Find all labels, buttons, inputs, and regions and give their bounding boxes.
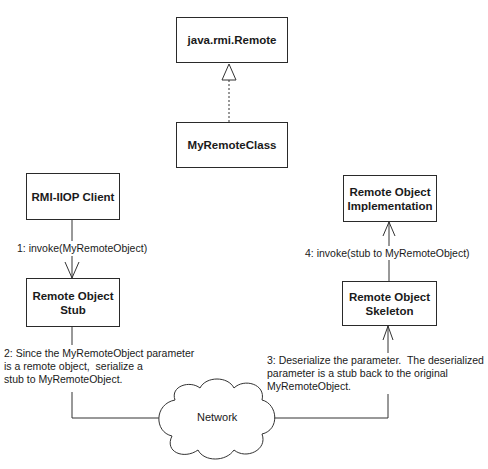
stub-network-line	[72, 392, 160, 418]
network-skeleton-line	[274, 394, 388, 418]
box-remote-object-stub: Remote Object Stub	[26, 278, 120, 327]
hollow-triangle-arrowhead-icon	[222, 64, 236, 80]
interface-box-java-rmi-remote: java.rmi.Remote	[176, 17, 288, 63]
connector-layer	[0, 0, 488, 469]
box-label: MyRemoteClass	[188, 138, 277, 152]
box-label: Remote Object Implementation	[348, 185, 433, 213]
class-box-my-remote-class: MyRemoteClass	[176, 122, 288, 168]
message-step-2: 2: Since the MyRemoteObject parameter is…	[4, 347, 194, 386]
box-remote-object-implementation: Remote Object Implementation	[343, 175, 437, 222]
network-label: Network	[197, 411, 237, 423]
message-step-1: 1: invoke(MyRemoteObject)	[17, 242, 147, 255]
box-label: RMI-IIOP Client	[32, 190, 115, 204]
box-rmi-iiop-client: RMI-IIOP Client	[26, 173, 120, 220]
box-label: Remote Object Skeleton	[349, 290, 430, 318]
box-label: java.rmi.Remote	[188, 33, 277, 47]
box-label: Remote Object Stub	[32, 289, 113, 317]
message-step-3: 3: Deserialize the parameter. The deseri…	[267, 354, 484, 393]
message-step-4: 4: invoke(stub to MyRemoteObject)	[305, 247, 470, 260]
box-remote-object-skeleton: Remote Object Skeleton	[342, 281, 437, 326]
